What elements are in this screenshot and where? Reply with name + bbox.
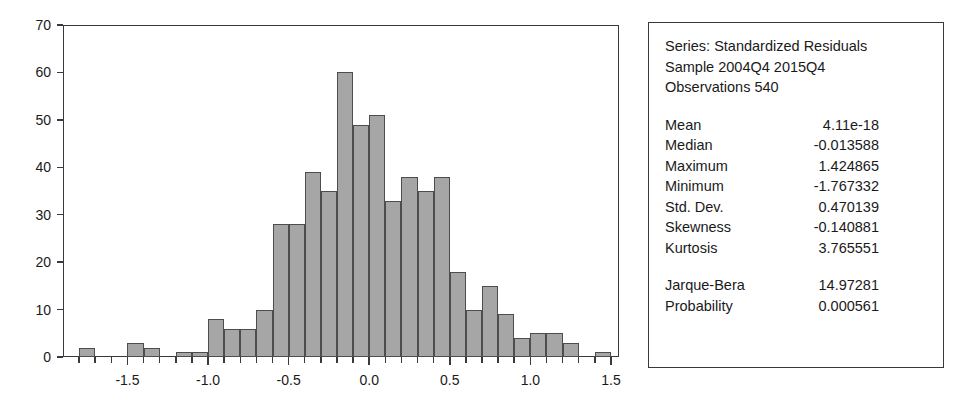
y-tick-label: 40: [0, 160, 51, 174]
histogram-bar: [466, 310, 482, 357]
y-tick-label: 70: [0, 18, 51, 32]
histogram-bar: [240, 329, 256, 357]
x-tick-mark: [304, 357, 306, 363]
stat-label: Maximum: [665, 156, 769, 177]
x-tick-mark: [223, 357, 225, 363]
stat-label: Std. Dev.: [665, 197, 769, 218]
histogram-bar: [256, 310, 272, 357]
stat-value: 3.765551: [769, 238, 879, 259]
histogram-bar: [369, 115, 385, 357]
x-tick-mark: [94, 357, 96, 363]
stats-spacer-top: [665, 98, 943, 115]
stat-label: Jarque-Bera: [665, 275, 769, 296]
stat-label: Skewness: [665, 217, 769, 238]
stats-spacer-bottom: [665, 258, 943, 275]
x-tick-label: -0.5: [259, 373, 319, 387]
histogram-bar: [127, 343, 143, 357]
x-tick-mark: [401, 357, 403, 363]
x-axis: -1.5-1.0-0.50.00.51.01.5: [63, 357, 620, 405]
x-tick-mark: [111, 357, 113, 363]
x-tick-mark: [562, 357, 564, 363]
histogram-bar: [289, 224, 305, 357]
x-tick-mark: [191, 357, 193, 363]
x-tick-mark: [594, 357, 596, 363]
x-tick-mark: [417, 357, 419, 363]
x-tick-mark: [175, 357, 177, 363]
x-major-tick-mark: [449, 357, 451, 365]
stat-value: 4.11e-18: [769, 115, 879, 136]
x-tick-label: -1.0: [178, 373, 238, 387]
y-tick-label: 30: [0, 208, 51, 222]
test-stat-row: Jarque-Bera14.97281: [665, 275, 943, 296]
stat-value: -0.140881: [769, 217, 879, 238]
histogram-bar: [563, 343, 579, 357]
histogram-bars: [63, 25, 619, 357]
histogram-bar: [337, 72, 353, 357]
y-tick-label: 0: [0, 350, 51, 364]
stat-row: Mean4.11e-18: [665, 115, 943, 136]
histogram-bar: [385, 201, 401, 358]
x-tick-mark: [159, 357, 161, 363]
stat-row: Maximum1.424865: [665, 156, 943, 177]
histogram-bar: [353, 125, 369, 357]
sample-range-line: Sample 2004Q4 2015Q4: [665, 57, 943, 78]
x-major-tick-mark: [127, 357, 129, 365]
x-major-tick-mark: [530, 357, 532, 365]
x-major-tick-mark: [368, 357, 370, 365]
histogram-bar: [321, 191, 337, 357]
x-tick-mark: [240, 357, 242, 363]
descriptive-stats-list: Mean4.11e-18Median-0.013588Maximum1.4248…: [665, 115, 943, 259]
histogram-bar: [434, 177, 450, 357]
stat-row: Skewness-0.140881: [665, 217, 943, 238]
x-tick-mark: [481, 357, 483, 363]
x-tick-mark: [385, 357, 387, 363]
stat-label: Minimum: [665, 176, 769, 197]
stat-value: 14.97281: [769, 275, 879, 296]
histogram-bar: [514, 338, 530, 357]
observations-line: Observations 540: [665, 77, 943, 98]
x-tick-label: 0.5: [420, 373, 480, 387]
stat-value: -1.767332: [769, 176, 879, 197]
stat-value: -0.013588: [769, 135, 879, 156]
histogram-bar: [79, 348, 95, 357]
x-tick-mark: [78, 357, 80, 363]
x-tick-mark: [578, 357, 580, 363]
histogram-bar: [498, 314, 514, 357]
stat-label: Kurtosis: [665, 238, 769, 259]
y-tick-label: 60: [0, 65, 51, 79]
y-tick-label: 50: [0, 113, 51, 127]
stat-row: Minimum-1.767332: [665, 176, 943, 197]
x-tick-mark: [336, 357, 338, 363]
x-tick-mark: [513, 357, 515, 363]
histogram-bar: [224, 329, 240, 357]
x-major-tick-mark: [610, 357, 612, 365]
normality-test-list: Jarque-Bera14.97281Probability0.000561: [665, 275, 943, 316]
statistics-panel: Series: Standardized Residuals Sample 20…: [648, 22, 944, 368]
histogram-bar: [530, 333, 546, 357]
histogram-bar: [546, 333, 562, 357]
x-tick-mark: [497, 357, 499, 363]
x-tick-label: 1.5: [581, 373, 641, 387]
y-tick-label: 10: [0, 303, 51, 317]
test-stat-row: Probability0.000561: [665, 296, 943, 317]
stat-label: Probability: [665, 296, 769, 317]
stat-row: Kurtosis3.765551: [665, 238, 943, 259]
x-tick-mark: [256, 357, 258, 363]
y-tick-label: 20: [0, 255, 51, 269]
x-tick-label: 0.0: [339, 373, 399, 387]
stat-value: 1.424865: [769, 156, 879, 177]
histogram-bar: [144, 348, 160, 357]
x-tick-mark: [546, 357, 548, 363]
histogram-bar: [273, 224, 289, 357]
stat-label: Median: [665, 135, 769, 156]
histogram-figure: 706050403020100 -1.5-1.0-0.50.00.51.01.5…: [0, 0, 953, 405]
histogram-bar: [482, 286, 498, 357]
stat-row: Median-0.013588: [665, 135, 943, 156]
x-major-tick-mark: [288, 357, 290, 365]
histogram-bar: [450, 272, 466, 357]
x-tick-mark: [352, 357, 354, 363]
x-tick-mark: [272, 357, 274, 363]
x-tick-mark: [433, 357, 435, 363]
stat-value: 0.470139: [769, 197, 879, 218]
histogram-bar: [305, 172, 321, 357]
